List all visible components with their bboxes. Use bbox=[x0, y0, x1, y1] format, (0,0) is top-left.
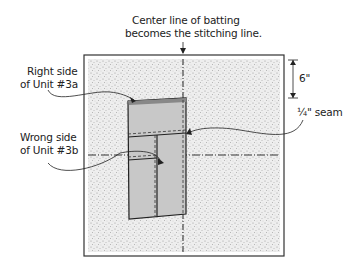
title-line-2: becomes the stitching line. bbox=[125, 27, 262, 40]
unit3b-label-line-1: Wrong side bbox=[20, 131, 77, 144]
dimension-label: 6" bbox=[299, 72, 310, 85]
unit3a-label-line-2: of Unit #3a bbox=[20, 78, 78, 91]
seam-label: ¼" seam bbox=[297, 106, 343, 119]
unit3b-label-line-2: of Unit #3b bbox=[20, 144, 78, 157]
title-line-1: Center line of batting bbox=[132, 14, 240, 27]
unit3a-label-line-1: Right side bbox=[27, 65, 78, 78]
